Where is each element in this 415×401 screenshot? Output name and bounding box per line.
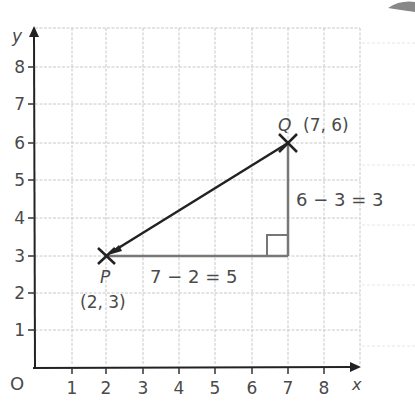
svg-text:2: 2 <box>14 283 25 303</box>
corner-blob <box>388 2 415 12</box>
horizontal-difference-label: 7 − 2 = 5 <box>150 266 237 287</box>
x-axis <box>33 367 352 368</box>
x-axis-label: x <box>351 375 362 394</box>
svg-text:4: 4 <box>174 378 185 398</box>
point-p-name: P <box>100 267 111 287</box>
right-angle-marker <box>267 235 288 256</box>
svg-text:5: 5 <box>210 378 221 398</box>
svg-text:6: 6 <box>247 378 258 398</box>
point-q-coords: (7, 6) <box>303 115 349 135</box>
y-axis-label: y <box>11 26 23 46</box>
origin-label: O <box>10 373 24 394</box>
coordinate-diagram: y x O 1 2 3 4 5 6 7 8 1 2 3 4 5 6 7 8 P … <box>0 0 415 401</box>
svg-text:4: 4 <box>14 208 25 228</box>
svg-text:8: 8 <box>14 57 25 77</box>
svg-text:3: 3 <box>14 246 25 266</box>
svg-text:3: 3 <box>138 378 149 398</box>
svg-text:2: 2 <box>101 378 112 398</box>
svg-text:6: 6 <box>14 133 25 153</box>
y-tick-labels: 1 2 3 4 5 6 7 8 <box>14 57 25 340</box>
svg-text:1: 1 <box>67 378 78 398</box>
segment-pq <box>112 143 288 252</box>
svg-text:7: 7 <box>283 378 294 398</box>
point-p-coords: (2, 3) <box>80 292 126 312</box>
y-axis <box>34 34 35 368</box>
svg-text:1: 1 <box>14 320 25 340</box>
svg-text:5: 5 <box>14 170 25 190</box>
x-axis-arrow-icon <box>350 362 361 372</box>
vertical-difference-label: 6 − 3 = 3 <box>296 189 383 210</box>
x-tick-labels: 1 2 3 4 5 6 7 8 <box>67 378 330 398</box>
svg-text:8: 8 <box>319 378 330 398</box>
point-q-name: Q <box>278 115 291 135</box>
svg-text:7: 7 <box>14 94 25 114</box>
